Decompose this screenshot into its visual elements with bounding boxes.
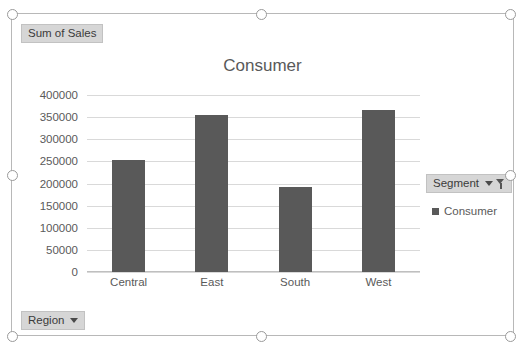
resize-handle-middle-right[interactable] [505,170,516,181]
y-axis-labels: 0500001000001500002000002500003000003500… [12,95,82,272]
legend-label-consumer: Consumer [444,205,497,217]
bar-slot [170,95,253,272]
resize-handle-bottom-center[interactable] [256,331,267,342]
x-axis-tick-label: West [337,276,420,288]
region-field-button[interactable]: Region [21,311,85,330]
x-axis-tick-label: East [170,276,253,288]
plot-area [87,95,420,272]
gridline [87,272,420,273]
bar-east[interactable] [195,115,228,272]
bar-central[interactable] [112,160,145,272]
value-field-label: Sum of Sales [28,25,96,42]
chart-screenshot: Consumer 0500001000001500002000002500003… [0,0,525,351]
pivot-chart-frame[interactable]: Consumer 0500001000001500002000002500003… [11,13,514,336]
y-axis-tick-label: 0 [8,266,78,278]
resize-handle-bottom-right[interactable] [505,331,516,342]
resize-handle-middle-left[interactable] [7,170,18,181]
region-field-label: Region [28,312,64,329]
x-axis-tick-label: Central [87,276,170,288]
resize-handle-top-center[interactable] [256,9,267,20]
y-axis-tick-label: 150000 [8,200,78,212]
resize-handle-top-left[interactable] [7,9,18,20]
bar-west[interactable] [362,110,395,272]
y-axis-tick-label: 400000 [8,89,78,101]
chart-title: Consumer [12,56,513,76]
chevron-down-icon[interactable] [485,181,493,186]
chart-legend: Consumer [432,205,497,217]
bar-slot [254,95,337,272]
value-field-button[interactable]: Sum of Sales [21,24,103,43]
bar-slot [87,95,170,272]
y-axis-tick-label: 250000 [8,155,78,167]
bar-south[interactable] [279,187,312,272]
y-axis-tick-label: 100000 [8,222,78,234]
bar-series-consumer[interactable] [87,95,420,272]
bar-slot [337,95,420,272]
legend-swatch-consumer [432,208,439,215]
filter-icon[interactable] [496,179,505,189]
y-axis-tick-label: 350000 [8,111,78,123]
segment-field-label: Segment [433,175,479,192]
x-axis-tick-label: South [254,276,337,288]
resize-handle-bottom-left[interactable] [7,331,18,342]
y-axis-tick-label: 200000 [8,178,78,190]
y-axis-tick-label: 50000 [8,244,78,256]
resize-handle-top-right[interactable] [505,9,516,20]
chevron-down-icon[interactable] [70,318,78,323]
x-axis-labels: CentralEastSouthWest [87,276,420,288]
y-axis-tick-label: 300000 [8,133,78,145]
segment-field-button[interactable]: Segment [426,174,512,193]
